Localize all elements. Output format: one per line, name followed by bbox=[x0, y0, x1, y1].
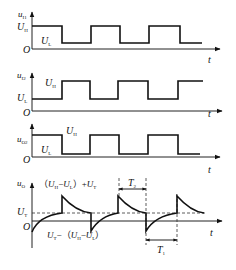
panel-u-o2: uO2 UH UL O t bbox=[17, 124, 220, 175]
y-label: uI2 bbox=[17, 70, 26, 81]
square-wave-u-o2 bbox=[32, 135, 200, 154]
square-wave-u-i1 bbox=[32, 26, 202, 43]
origin-label: O bbox=[23, 154, 30, 165]
x-label: t bbox=[208, 54, 211, 65]
origin-label: O bbox=[23, 107, 30, 118]
y-label: uO bbox=[17, 178, 26, 189]
level-low-label: UL bbox=[17, 92, 27, 104]
upper-annotation: （UH−UL）+UT bbox=[39, 179, 96, 190]
panel-u-o: T2 T1 uO UT O t （UH−UL）+UT UT−（UH−UL） bbox=[17, 177, 222, 256]
panel-u-i1: uI1 UH UL O t bbox=[17, 9, 220, 65]
level-high-label: UH bbox=[45, 77, 56, 89]
t2-label: T2 bbox=[128, 177, 137, 189]
level-low-label: UL bbox=[41, 144, 51, 156]
x-label: t bbox=[208, 108, 211, 119]
lower-annotation: UT−（UH−UL） bbox=[47, 230, 104, 241]
y-label: uO2 bbox=[17, 134, 28, 145]
level-low-label: UL bbox=[41, 35, 51, 47]
t1-label: T1 bbox=[157, 244, 166, 256]
square-wave-u-i2 bbox=[32, 81, 203, 99]
level-high-label: UH bbox=[66, 125, 77, 137]
x-label: t bbox=[208, 164, 211, 175]
origin-label: O bbox=[23, 221, 30, 232]
output-waveform bbox=[32, 196, 204, 232]
timing-diagram: uI1 UH UL O t uI2 UH UL O t uO2 UH UL O … bbox=[0, 0, 236, 270]
origin-label: O bbox=[23, 44, 30, 55]
panel-u-i2: uI2 UH UL O t bbox=[17, 70, 222, 119]
threshold-label: UT bbox=[17, 206, 27, 218]
x-label: t bbox=[210, 227, 213, 238]
y-label: uI1 bbox=[18, 9, 27, 20]
level-high-label: UH bbox=[17, 21, 28, 33]
